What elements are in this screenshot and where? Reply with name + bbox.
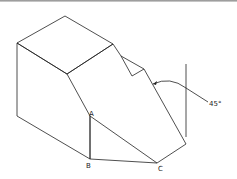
top-face [17, 16, 113, 74]
label-a: A [89, 110, 94, 118]
arrow-head-icon [153, 81, 157, 85]
leader-line [186, 88, 208, 102]
left-face [17, 43, 90, 159]
angle-arc [153, 81, 186, 88]
label-b: B [86, 162, 91, 170]
slanted-face [67, 44, 186, 163]
angle-label: 45° [209, 100, 221, 108]
diagram-canvas: A B C 45° [0, 0, 237, 179]
isometric-drawing: A B C 45° [0, 0, 237, 179]
label-c: C [158, 165, 163, 173]
